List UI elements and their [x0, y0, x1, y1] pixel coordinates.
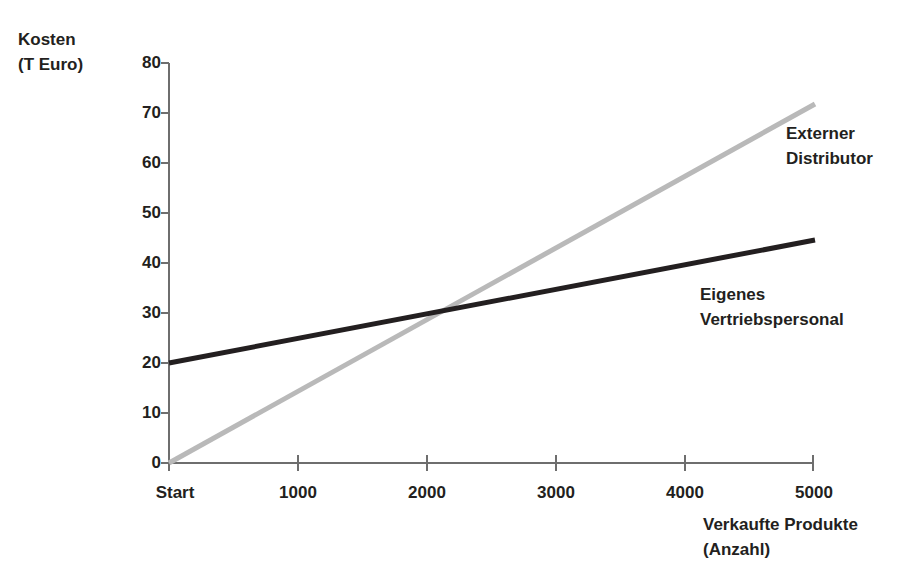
series-annotation-eigenes-vertriebspersonal: Eigenes Vertriebspersonal: [700, 283, 844, 332]
cost-comparison-chart: Kosten (T Euro) Verkaufte Produkte (Anza…: [0, 0, 922, 587]
series-annotation-externer-distributor: Externer Distributor: [786, 122, 873, 171]
x-axis: [169, 455, 813, 471]
y-axis: [161, 63, 169, 463]
